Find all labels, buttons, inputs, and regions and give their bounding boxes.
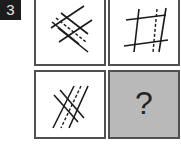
crossed-lines-figure-3 [36, 72, 104, 137]
puzzle-cell-top-left [34, 0, 106, 66]
question-number-badge: 3 [0, 0, 21, 20]
crossed-lines-figure-1 [36, 0, 104, 64]
answer-placeholder-cell[interactable]: ? [108, 70, 180, 139]
puzzle-cell-bottom-left [34, 70, 106, 139]
question-mark: ? [110, 85, 178, 122]
puzzle-cell-top-right [108, 0, 180, 66]
crossed-lines-figure-2 [110, 0, 178, 64]
